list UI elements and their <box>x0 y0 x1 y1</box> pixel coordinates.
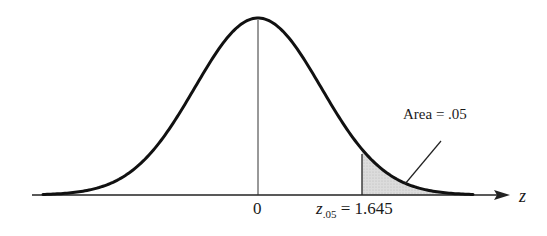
critical-subscript: .05 <box>323 208 337 220</box>
area-annotation: Area = .05 <box>403 106 467 123</box>
axis-name-z: z <box>519 186 526 207</box>
critical-symbol: z <box>316 199 323 218</box>
area-pointer-line <box>405 141 441 184</box>
tick-label-zero: 0 <box>253 199 262 219</box>
critical-value: = 1.645 <box>336 199 392 218</box>
critical-value-label: z.05 = 1.645 <box>316 199 393 220</box>
